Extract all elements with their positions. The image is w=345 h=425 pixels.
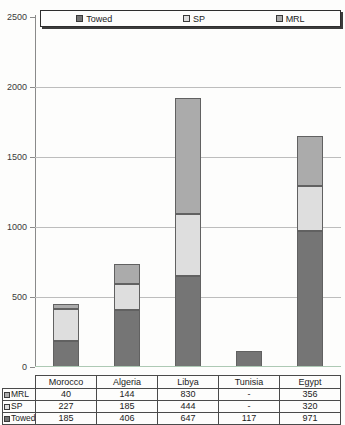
bar-segment-towed-tunisia [236, 351, 262, 367]
y-axis-label: 1500 [0, 152, 31, 163]
bar-segment-sp-morocco [53, 309, 79, 341]
table-value-cell: 144 [97, 389, 158, 401]
plot-area [35, 17, 341, 367]
bar-segment-sp-egypt [297, 186, 323, 231]
legend-label: Towed [86, 14, 112, 24]
table-value-cell: 830 [158, 389, 219, 401]
table-row: MRL40144830-356 [3, 389, 341, 401]
y-axis-tick [30, 17, 35, 18]
bar-segment-towed-libya [175, 276, 201, 367]
table-value-cell: 647 [158, 413, 219, 425]
towed-swatch-icon [4, 416, 10, 422]
towed-swatch-icon [76, 15, 83, 22]
bar-segment-mrl-egypt [297, 136, 323, 186]
table-row-label-sp: SP [3, 401, 36, 413]
data-table: MoroccoAlgeriaLibyaTunisiaEgyptMRL401448… [2, 375, 341, 425]
sp-swatch-icon [4, 404, 10, 410]
table-value-cell: 320 [280, 401, 341, 413]
legend-item-towed: Towed [76, 14, 112, 24]
table-value-cell: 444 [158, 401, 219, 413]
y-axis-tick [30, 297, 35, 298]
table-row-label-text: Towed [11, 413, 36, 423]
legend-label: MRL [286, 14, 305, 24]
table-value-cell: 971 [280, 413, 341, 425]
y-axis-tick [30, 157, 35, 158]
stacked-bar-chart: 05001000150020002500 TowedSPMRL MoroccoA… [0, 0, 345, 425]
gridline [35, 87, 341, 88]
table-corner-cell [3, 376, 36, 389]
table-header-cell: Egypt [280, 376, 341, 389]
mrl-swatch-icon [276, 15, 283, 22]
table-header-row: MoroccoAlgeriaLibyaTunisiaEgypt [3, 376, 341, 389]
legend-item-mrl: MRL [276, 14, 305, 24]
table-value-cell: 406 [97, 413, 158, 425]
chart-legend: TowedSPMRL [40, 10, 341, 27]
x-axis-baseline [35, 366, 341, 367]
bar-segment-towed-algeria [114, 310, 140, 367]
table-header-cell: Tunisia [219, 376, 280, 389]
table-value-cell: - [219, 401, 280, 413]
bar-segment-mrl-libya [175, 98, 201, 214]
table-row-label-towed: Towed [3, 413, 36, 425]
table-row: SP227185444-320 [3, 401, 341, 413]
bar-segment-mrl-algeria [114, 264, 140, 284]
bar-segment-mrl-morocco [53, 304, 79, 310]
y-axis-label: 2500 [0, 12, 31, 23]
y-axis-label: 1000 [0, 222, 31, 233]
table-row-label-mrl: MRL [3, 389, 36, 401]
y-axis-tick [30, 87, 35, 88]
sp-swatch-icon [183, 15, 190, 22]
y-axis-tick [30, 227, 35, 228]
table-value-cell: 356 [280, 389, 341, 401]
table-row-label-text: MRL [11, 389, 29, 399]
legend-label: SP [193, 14, 205, 24]
y-axis-label: 2000 [0, 82, 31, 93]
table-row: Towed185406647117971 [3, 413, 341, 425]
table-value-cell: 40 [36, 389, 97, 401]
mrl-swatch-icon [4, 392, 10, 398]
y-axis-label: 500 [0, 292, 31, 303]
table-value-cell: 117 [219, 413, 280, 425]
table-value-cell: 227 [36, 401, 97, 413]
table-header-cell: Morocco [36, 376, 97, 389]
legend-item-sp: SP [183, 14, 205, 24]
table-value-cell: - [219, 389, 280, 401]
bar-segment-sp-algeria [114, 284, 140, 310]
y-axis-tick [30, 367, 35, 368]
table-value-cell: 185 [36, 413, 97, 425]
table-header-cell: Libya [158, 376, 219, 389]
y-axis-label: 0 [0, 362, 31, 373]
table-header-cell: Algeria [97, 376, 158, 389]
table-row-label-text: SP [11, 401, 22, 411]
bar-segment-towed-egypt [297, 231, 323, 367]
bar-segment-sp-libya [175, 214, 201, 276]
bar-segment-towed-morocco [53, 341, 79, 367]
table-value-cell: 185 [97, 401, 158, 413]
